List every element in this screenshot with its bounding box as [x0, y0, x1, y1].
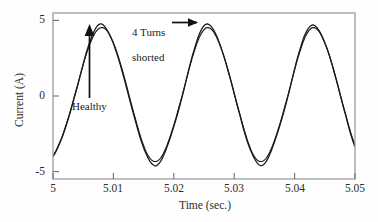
annotation-shorted-line1: 4 Turns [132, 26, 165, 38]
y-axis-title: Current (A) [14, 73, 26, 127]
x-tick-label-5-01: 5.01 [103, 183, 123, 195]
x-tick-label-5-02: 5.02 [164, 183, 184, 195]
y-tick-label-minus-5: -5 [26, 166, 45, 178]
y-tick-label-5: 5 [31, 14, 45, 26]
annotation-shorted-line2: shorted [132, 51, 165, 63]
x-axis-title: Time (sec.) [179, 200, 231, 212]
annotation-healthy: Healthy [72, 100, 107, 112]
x-tick-label-5-05: 5.05 [345, 183, 365, 195]
x-tick-label-5-03: 5.03 [224, 183, 244, 195]
plot-frame [53, 13, 355, 179]
x-tick-label-5-04: 5.04 [285, 183, 305, 195]
annotation-4-turns-shorted: 4 Turns shorted [132, 14, 165, 76]
x-tick-label-5: 5 [50, 183, 56, 195]
chart-figure: 5 0 -5 5 5.01 5.02 5.03 5.04 5.05 Time (… [0, 0, 378, 222]
chart-plot-area [0, 0, 378, 222]
y-tick-label-0: 0 [31, 90, 45, 102]
